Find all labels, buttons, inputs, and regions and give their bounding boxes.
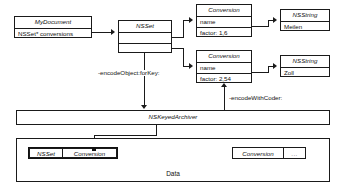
edge-archiver-to-conversion2 — [224, 87, 225, 110]
object-diagram: MyDocument NSSet* conversions NSSet Conv… — [0, 0, 346, 192]
data-cell-nsset: NSSet — [29, 148, 63, 158]
object-box-conversion-2[interactable]: Conversion name factor: 2,54 — [196, 50, 252, 83]
object-box-conversion-1[interactable]: Conversion name factor: 1,6 — [196, 4, 252, 37]
edge-conversion2-to-nsstring2-a — [252, 72, 269, 73]
nsstring1-value: Meilen — [281, 21, 329, 32]
mydocument-class-name: MyDocument — [15, 17, 91, 28]
data-container-label: Data — [17, 171, 329, 178]
object-box-nsstring-2[interactable]: NSString Zoll — [280, 55, 330, 77]
arrowhead-archiver-in — [141, 105, 147, 109]
nsset-class-name: NSSet — [119, 21, 171, 32]
edge-conversion1-to-nsstring1-a — [252, 26, 269, 27]
edge-mydocument-to-nsset — [92, 32, 112, 33]
arrowhead-nsset-in — [111, 29, 115, 35]
mydocument-field: NSSet* conversions — [15, 28, 91, 39]
nsstring2-class-name: NSString — [281, 56, 329, 67]
data-cell-conversion-left: Conversion — [63, 148, 117, 158]
conversion2-name-field: name — [197, 62, 251, 73]
object-box-nskeyedarchiver[interactable]: NSKeyedArchiver — [16, 110, 330, 125]
data-cell-group-right[interactable]: Conversion ... — [232, 147, 306, 159]
edge-conversion2-to-nsstring2-b — [268, 66, 269, 73]
nsstring2-value: Zoll — [281, 67, 329, 78]
object-box-mydocument[interactable]: MyDocument NSSet* conversions — [14, 16, 92, 38]
edge-conversion1-to-nsstring1-b — [268, 20, 269, 27]
data-cell-group-left[interactable]: NSSet Conversion — [28, 147, 118, 159]
archiver-class-name: NSKeyedArchiver — [17, 111, 329, 124]
arrowhead-conversion1-in — [189, 17, 193, 23]
edge-endpoint-dot — [92, 147, 96, 151]
edge-nsset-to-archiver — [144, 53, 145, 106]
data-container: Data — [16, 138, 330, 182]
object-box-nsset[interactable]: NSSet — [118, 20, 172, 53]
nsset-slot-1 — [119, 32, 171, 43]
edge-label-encode-object-for-key: -encodeObject:forKey: — [97, 70, 161, 76]
edge-label-encode-with-coder: -encodeWithCoder: — [228, 95, 283, 101]
arrowhead-nsstring1-in — [273, 17, 277, 23]
conversion1-factor-field: factor: 1,6 — [197, 27, 251, 38]
nsset-slot-2 — [119, 43, 171, 54]
arrowhead-conversion2-in — [189, 63, 193, 69]
arrowhead-nsstring2-in — [273, 63, 277, 69]
nsstring1-class-name: NSString — [281, 10, 329, 21]
data-cell-conversion-right: Conversion — [232, 147, 284, 159]
edge-nsset-slot2-b — [183, 48, 184, 66]
object-box-nsstring-1[interactable]: NSString Meilen — [280, 9, 330, 31]
conversion2-class-name: Conversion — [197, 51, 251, 62]
conversion1-class-name: Conversion — [197, 5, 251, 16]
edge-nsset-slot1-b — [183, 20, 184, 38]
edge-archiver-to-data-b — [94, 135, 157, 136]
data-cell-ellipsis: ... — [284, 147, 306, 159]
conversion2-factor-field: factor: 2,54 — [197, 73, 251, 84]
conversion1-name-field: name — [197, 16, 251, 27]
